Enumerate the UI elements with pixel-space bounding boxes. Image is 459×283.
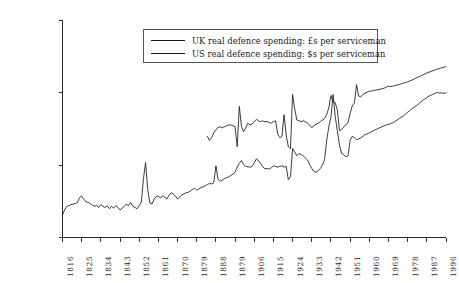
- legend-swatch-uk-icon: [151, 40, 185, 41]
- x-tick-label: 1960: [372, 255, 381, 276]
- x-tick-label: 1996: [449, 255, 458, 276]
- x-tick-label: 1969: [391, 255, 400, 276]
- x-tick-label: 1942: [334, 255, 343, 276]
- x-tick-label: 1906: [257, 255, 266, 276]
- chart-legend: UK real defence spending: £s per service…: [143, 29, 378, 63]
- legend-label-us: US real defence spending: $s per service…: [192, 49, 385, 59]
- x-tick-label: 1834: [104, 255, 113, 276]
- x-axis-ticks: [63, 238, 447, 242]
- legend-label-uk: UK real defence spending: £s per service…: [192, 36, 386, 46]
- x-tick-label: 1861: [161, 255, 170, 276]
- x-tick-label: 1888: [219, 255, 228, 276]
- x-tick-label: 1843: [123, 255, 132, 276]
- chart-container: 1000100001000001000000 18161825183418431…: [0, 0, 459, 283]
- x-tick-label: 1951: [353, 255, 362, 276]
- x-tick-label: 1933: [315, 255, 324, 276]
- legend-item-uk: UK real defence spending: £s per service…: [151, 34, 386, 47]
- legend-swatch-us-icon: [151, 53, 185, 54]
- x-tick-label: 1987: [430, 255, 439, 276]
- x-tick-label: 1816: [66, 255, 75, 276]
- x-tick-label: 1924: [296, 255, 305, 276]
- y-axis-ticks: [59, 21, 63, 238]
- x-tick-label: 1915: [276, 255, 285, 276]
- series-line-uk: [63, 93, 447, 215]
- x-tick-label: 1978: [411, 255, 420, 276]
- x-tick-label: 1852: [142, 255, 151, 276]
- data-series-group: [63, 67, 447, 215]
- legend-item-us: US real defence spending: $s per service…: [151, 47, 385, 60]
- x-tick-label: 1825: [85, 255, 94, 276]
- series-line-us: [207, 67, 446, 149]
- x-tick-label: 1879: [200, 255, 209, 276]
- x-tick-label: 1879: [238, 255, 247, 276]
- x-tick-label: 1870: [181, 255, 190, 276]
